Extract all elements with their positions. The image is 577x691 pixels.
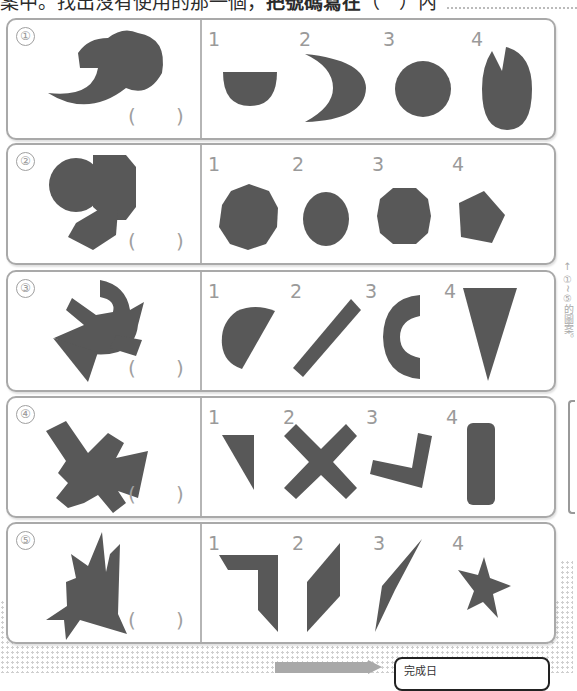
option-label: 1 (208, 153, 220, 175)
puzzle-row-2: ② ( ) 1 2 3 4 (6, 143, 556, 265)
composite-figure (38, 28, 158, 128)
instruction-prefix: 案中。找出沒有使用的那一個， (0, 0, 266, 13)
notched-ellipse-shape[interactable] (480, 46, 534, 132)
divider (200, 272, 202, 390)
dotted-background-side (560, 560, 573, 620)
octagon-shape[interactable] (376, 187, 432, 245)
instruction-header: 案中。找出沒有使用的那一個，把號碼寫在（ ）內 (0, 0, 577, 12)
option-label: 1 (208, 280, 220, 302)
answer-paren-close: ) (176, 104, 184, 128)
option-label: 3 (383, 28, 395, 50)
option-label: 1 (208, 28, 220, 50)
divider (200, 524, 202, 642)
option-label: 4 (446, 406, 458, 428)
answer-paren-open: ( (128, 356, 136, 380)
row-number: ④ (16, 405, 35, 424)
pentagon-shape[interactable] (458, 190, 508, 245)
answer-paren-close: ) (176, 482, 184, 506)
half-disc-shape[interactable] (221, 70, 279, 108)
puzzle-row-5: ⑤ ( ) 1 2 3 4 (6, 522, 556, 644)
instruction-suffix: （ ）內 (361, 0, 437, 13)
c-arc-shape[interactable] (382, 294, 422, 380)
answer-paren-open: ( (128, 482, 136, 506)
option-label: 2 (292, 153, 304, 175)
diagonal-bar-shape[interactable] (293, 298, 363, 378)
option-label: 4 (444, 280, 456, 302)
side-tab (568, 400, 575, 514)
composite-figure (46, 413, 156, 513)
option-label: 3 (366, 406, 378, 428)
option-label: 4 (452, 153, 464, 175)
puzzle-row-1: ① ( ) 1 2 3 4 (6, 18, 556, 140)
l-bracket-shape[interactable] (370, 432, 434, 490)
star-shape[interactable] (458, 556, 514, 620)
completion-label: 完成日 (404, 662, 437, 678)
footer-arrow (275, 662, 370, 673)
puzzle-row-4: ④ ( ) 1 2 3 4 (6, 396, 556, 518)
circle-shape[interactable] (394, 60, 452, 118)
instruction-bold: 把號碼寫在 (266, 0, 361, 13)
side-note-text: ①~⑤的圖案。 (562, 274, 573, 344)
parallelogram-shape[interactable] (305, 542, 341, 634)
thin-quadrilateral-shape[interactable] (373, 538, 423, 634)
option-label: 2 (299, 28, 311, 50)
semicircle-shape[interactable] (220, 305, 276, 371)
arrow-right-icon (368, 660, 382, 674)
side-arrow: ← (562, 262, 573, 270)
row-number: ① (16, 27, 35, 46)
answer-paren-open: ( (128, 104, 136, 128)
row-number: ② (16, 152, 35, 171)
row-number: ③ (16, 279, 35, 298)
option-label: 4 (452, 532, 464, 554)
ellipse-shape[interactable] (302, 191, 350, 247)
option-label: 2 (292, 532, 304, 554)
nonagon-shape[interactable] (218, 183, 280, 251)
puzzle-row-3: ③ ( ) 1 2 3 4 (6, 270, 556, 392)
option-label: 1 (208, 532, 220, 554)
row-number: ⑤ (16, 531, 35, 550)
rounded-rectangle-shape[interactable] (466, 422, 496, 506)
divider (200, 145, 202, 263)
divider (200, 398, 202, 516)
completion-date-box[interactable]: 完成日 (394, 657, 550, 691)
answer-paren-close: ) (176, 229, 184, 253)
divider (200, 20, 202, 138)
side-note: ← ①~⑤的圖案。 (561, 262, 573, 344)
crescent-shape[interactable] (303, 52, 368, 124)
answer-paren-close: ) (176, 608, 184, 632)
inverted-triangle-shape[interactable] (462, 287, 518, 382)
composite-figure (46, 532, 156, 642)
option-label: 1 (208, 406, 220, 428)
dotted-underline (447, 7, 577, 9)
answer-paren-open: ( (128, 608, 136, 632)
composite-figure (58, 280, 158, 390)
x-cross-shape[interactable] (284, 424, 358, 500)
answer-paren-close: ) (176, 356, 184, 380)
right-triangle-shape[interactable] (221, 434, 256, 492)
option-label: 3 (365, 280, 377, 302)
angle-bracket-shape[interactable] (218, 554, 280, 634)
answer-paren-open: ( (128, 229, 136, 253)
option-label: 3 (372, 153, 384, 175)
